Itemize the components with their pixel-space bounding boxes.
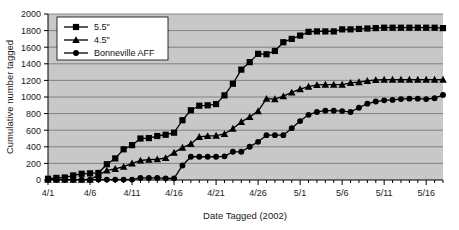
marker-circle [222,153,228,159]
marker-square [121,146,127,152]
marker-circle [73,50,79,56]
marker-circle [53,177,59,183]
marker-square [230,81,236,87]
marker-circle [213,154,219,160]
marker-square [205,102,211,108]
marker-circle [440,92,446,98]
marker-square [373,25,379,31]
marker-circle [348,109,354,115]
marker-square [389,25,395,31]
marker-square [171,130,177,136]
marker-circle [238,149,244,155]
marker-square [272,48,278,54]
marker-circle [381,97,387,103]
marker-circle [306,112,312,118]
legend-label: 4.5" [94,35,110,45]
marker-circle [322,108,328,114]
marker-circle [45,177,51,183]
marker-square [112,155,118,161]
marker-circle [314,109,320,115]
y-axis-title: Cumulative number tagged [4,40,15,154]
legend-label: Bonneville AFF [94,48,155,58]
marker-square [415,25,421,31]
marker-circle [154,175,160,181]
y-tick-label: 800 [26,109,41,119]
y-tick-label: 1000 [21,92,41,102]
y-tick-label: 0 [36,175,41,185]
marker-square [331,28,337,34]
marker-square [440,25,446,31]
x-tick-label: 4/11 [124,188,141,198]
marker-square [188,107,194,113]
marker-circle [70,177,76,183]
y-tick-label: 600 [26,126,41,136]
x-tick-label: 5/6 [336,188,349,198]
marker-circle [121,177,127,183]
marker-circle [398,96,404,102]
x-tick-label: 5/1 [294,188,307,198]
marker-circle [280,132,286,138]
marker-square [339,26,345,32]
marker-circle [255,139,261,145]
marker-square [381,25,387,31]
marker-circle [112,177,118,183]
marker-circle [104,177,110,183]
marker-circle [423,96,429,102]
marker-circle [297,118,303,124]
marker-square [431,25,437,31]
y-tick-label: 1200 [21,76,41,86]
marker-circle [264,132,270,138]
marker-circle [62,177,68,183]
marker-square [247,59,253,65]
x-axis-title: Date Tagged (2002) [203,210,287,221]
marker-circle [390,97,396,103]
marker-circle [272,132,278,138]
marker-square [347,26,353,32]
y-tick-label: 400 [26,142,41,152]
marker-circle [196,154,202,160]
y-tick-label: 2000 [21,9,41,19]
marker-circle [95,177,101,183]
marker-square [322,28,328,34]
marker-square [196,103,202,109]
x-tick-label: 4/26 [249,188,267,198]
marker-square [356,26,362,32]
marker-circle [289,125,295,131]
chart-legend: 5.5"4.5"Bonneville AFF [57,17,168,60]
x-tick-label: 4/1 [42,188,55,198]
legend-label: 5.5" [94,22,110,32]
marker-square [398,25,404,31]
marker-square [137,135,143,141]
marker-square [163,132,169,138]
marker-circle [205,154,211,160]
y-tick-label: 200 [26,159,41,169]
marker-square [423,25,429,31]
y-tick-label: 1600 [21,43,41,53]
marker-circle [171,175,177,181]
chart-figure: 0200400600800100012001400160018002000 4/… [0,0,459,230]
marker-square [73,24,79,30]
marker-square [305,29,311,35]
marker-circle [138,175,144,181]
x-tick-label: 5/11 [376,188,393,198]
y-tick-label: 1800 [21,26,41,36]
marker-circle [339,108,345,114]
marker-circle [79,177,85,183]
marker-circle [188,154,194,160]
marker-circle [331,108,337,114]
marker-square [146,135,152,141]
marker-square [87,170,93,176]
marker-circle [163,175,169,181]
marker-square [238,67,244,73]
marker-circle [406,96,412,102]
marker-circle [432,95,438,101]
y-tick-label: 1400 [21,59,41,69]
marker-circle [356,105,362,111]
x-tick-label: 5/16 [417,188,435,198]
marker-square [104,161,110,167]
marker-square [129,142,135,148]
marker-square [221,92,227,98]
marker-square [179,117,185,123]
marker-circle [373,99,379,105]
x-tick-label: 4/16 [165,188,183,198]
